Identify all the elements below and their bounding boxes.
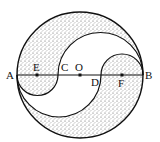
label-f: F — [118, 77, 124, 89]
point-o-marker — [79, 74, 82, 77]
label-c: C — [61, 61, 68, 73]
label-e: E — [33, 61, 40, 73]
label-d: D — [91, 76, 99, 88]
shaded-semicircle-db — [101, 54, 143, 75]
geometry-diagram: A E C O D F B — [0, 0, 160, 142]
label-b: B — [145, 69, 152, 81]
label-a: A — [6, 69, 14, 81]
label-o: O — [75, 61, 83, 73]
point-e-marker — [36, 74, 39, 77]
shaded-semicircle-ac — [17, 75, 58, 96]
